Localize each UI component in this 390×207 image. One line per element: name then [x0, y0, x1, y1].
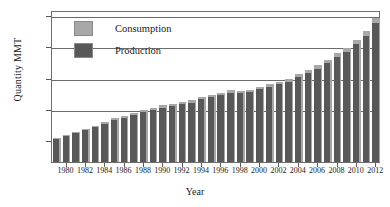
bar-group — [371, 12, 381, 162]
bar-group — [255, 12, 265, 162]
bar-production — [285, 82, 291, 163]
bar-group — [207, 12, 217, 162]
bar-group — [304, 12, 314, 162]
legend-item-consumption: Consumption — [74, 17, 172, 39]
x-tick-mark — [356, 163, 357, 167]
bar-chart: Quantity MMT Year 100200300400500 198019… — [0, 0, 390, 207]
bar-group — [294, 12, 304, 162]
bar-group — [284, 12, 294, 162]
bar-production — [140, 112, 146, 162]
bar-production — [130, 115, 136, 162]
bar-production — [72, 133, 78, 162]
x-tick-mark — [220, 163, 221, 167]
bar-production — [343, 52, 349, 162]
legend-label-production: Production — [115, 45, 161, 56]
bar-production — [227, 93, 233, 162]
legend-swatch-consumption — [74, 21, 93, 36]
y-axis-title: Quantity MMT — [12, 10, 23, 130]
x-tick-mark — [240, 163, 241, 167]
bar-production — [53, 139, 59, 162]
bar-group — [333, 12, 343, 162]
legend: Consumption Production — [74, 17, 172, 61]
bar-production — [169, 106, 175, 162]
x-tick-mark — [66, 163, 67, 167]
bar-production — [266, 87, 272, 163]
x-axis-title: Year — [0, 186, 390, 197]
bar-production — [372, 23, 378, 163]
bar-group — [352, 12, 362, 162]
bar-group — [178, 12, 188, 162]
bar-production — [63, 136, 69, 162]
bar-group — [323, 12, 333, 162]
x-tick-mark — [375, 163, 376, 167]
x-tick-mark — [162, 163, 163, 167]
x-tick-mark — [259, 163, 260, 167]
bar-production — [246, 92, 252, 162]
bar-production — [217, 95, 223, 162]
x-tick-mark — [317, 163, 318, 167]
bar-production — [198, 99, 204, 162]
bar-production — [324, 63, 330, 162]
bar-group — [342, 12, 352, 162]
bar-production — [295, 77, 301, 162]
bar-production — [334, 57, 340, 162]
bar-group — [265, 12, 275, 162]
bar-production — [256, 89, 262, 162]
x-tick-mark — [298, 163, 299, 167]
x-tick-mark — [85, 163, 86, 167]
bar-production — [121, 118, 127, 162]
x-tick-mark — [278, 163, 279, 167]
bar-production — [150, 110, 156, 162]
bar-production — [82, 130, 88, 162]
x-tick-mark — [201, 163, 202, 167]
bar-production — [208, 97, 214, 162]
bar-group — [226, 12, 236, 162]
bar-production — [237, 93, 243, 162]
bar-group — [52, 12, 62, 162]
x-tick-mark — [124, 163, 125, 167]
bar-production — [159, 108, 165, 163]
x-tick-mark — [143, 163, 144, 167]
x-tick-mark — [182, 163, 183, 167]
bar-production — [188, 103, 194, 163]
bar-production — [92, 127, 98, 162]
bar-group — [246, 12, 256, 162]
legend-label-consumption: Consumption — [115, 23, 172, 34]
bar-production — [101, 124, 107, 163]
x-tick-label: 2012 — [355, 166, 390, 175]
bar-group — [236, 12, 246, 162]
legend-item-production: Production — [74, 39, 172, 61]
bar-production — [353, 44, 359, 162]
bar-group — [313, 12, 323, 162]
bar-production — [305, 73, 311, 162]
bar-production — [111, 120, 117, 162]
x-tick-mark — [104, 163, 105, 167]
bar-production — [363, 36, 369, 162]
bar-production — [314, 69, 320, 162]
bar-group — [362, 12, 372, 162]
bar-group — [187, 12, 197, 162]
bar-group — [62, 12, 72, 162]
bar-group — [275, 12, 285, 162]
bar-production — [179, 104, 185, 162]
bar-group — [197, 12, 207, 162]
x-tick-mark — [337, 163, 338, 167]
bar-group — [217, 12, 227, 162]
legend-swatch-production — [74, 43, 93, 58]
bar-production — [276, 84, 282, 162]
